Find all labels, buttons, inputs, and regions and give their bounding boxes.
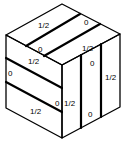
top-face	[6, 4, 120, 65]
right-face-label: 1/2	[105, 73, 117, 82]
top-face-label: 1/2	[38, 21, 50, 30]
right-face-label: 1/2	[64, 99, 76, 108]
left-face-label: 1/2	[30, 107, 42, 116]
left-face-label: 0	[55, 99, 60, 108]
top-face-label: 1/2	[82, 44, 94, 53]
cube-diagram: 1/2001/21/2001/201/21/20	[0, 0, 123, 142]
right-face-label: 0	[88, 110, 93, 119]
right-face-label: 0	[90, 59, 95, 68]
top-face-label: 1/2	[28, 57, 40, 66]
left-face-label: 0	[8, 69, 13, 78]
top-face-label: 0	[38, 45, 43, 54]
top-face-label: 0	[84, 18, 89, 27]
